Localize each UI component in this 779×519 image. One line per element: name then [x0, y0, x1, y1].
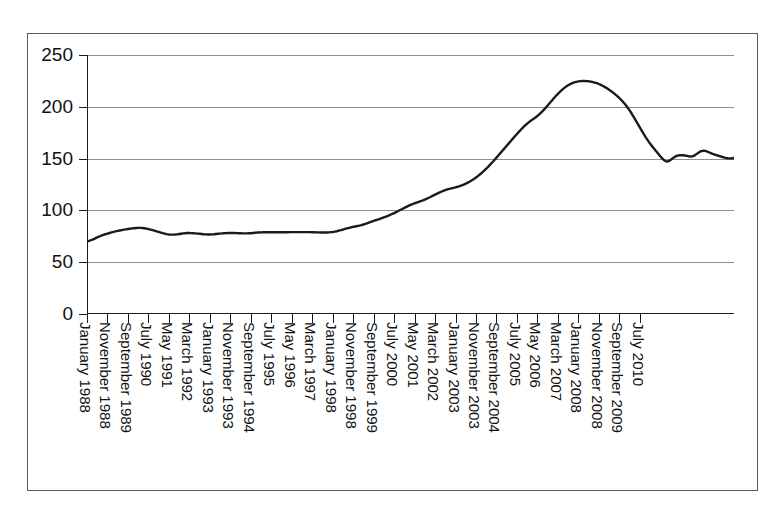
x-axis-label-1: November 1988 [98, 322, 113, 429]
data-line-layer [87, 55, 734, 314]
x-axis-label-9: July 1995 [262, 322, 277, 386]
x-axis-label-21: July 2005 [508, 322, 523, 386]
x-axis-label-7: November 1993 [221, 322, 236, 429]
x-axis-label-18: January 2003 [447, 322, 462, 413]
x-axis-label-24: January 2008 [569, 322, 584, 413]
x-axis-label-23: March 2007 [549, 322, 564, 401]
x-axis-label-15: July 2000 [385, 322, 400, 386]
chart-figure: 050100150200250 January 1988November 198… [0, 0, 779, 519]
x-axis-label-14: September 1999 [365, 322, 380, 433]
x-axis-label-10: May 1996 [283, 322, 298, 388]
y-axis-label-0: 0 [27, 304, 73, 323]
x-axis-label-11: March 1997 [303, 322, 318, 401]
y-tick-50 [79, 262, 87, 263]
x-axis-label-27: July 2010 [631, 322, 646, 386]
y-tick-0 [79, 314, 87, 315]
x-axis-label-20: September 2004 [487, 322, 502, 433]
x-axis-label-8: September 1994 [242, 322, 257, 433]
y-axis-label-50: 50 [27, 252, 73, 271]
x-axis-label-17: March 2002 [426, 322, 441, 401]
y-axis-label-200: 200 [27, 97, 73, 116]
y-axis-label-150: 150 [27, 149, 73, 168]
y-axis-label-100: 100 [27, 200, 73, 219]
y-tick-200 [79, 107, 87, 108]
x-axis-label-4: May 1991 [160, 322, 175, 388]
x-axis-label-22: May 2006 [528, 322, 543, 388]
x-axis-label-3: July 1990 [139, 322, 154, 386]
x-axis-label-19: November 2003 [467, 322, 482, 429]
x-axis-label-2: September 1989 [119, 322, 134, 433]
x-axis-label-12: January 1998 [324, 322, 339, 413]
line-series-index [87, 55, 734, 314]
x-axis-label-6: January 1993 [201, 322, 216, 413]
x-axis-label-0: January 1988 [78, 322, 93, 413]
series-polyline [87, 81, 734, 241]
y-tick-150 [79, 159, 87, 160]
x-axis-label-5: March 1992 [180, 322, 195, 401]
y-tick-100 [79, 210, 87, 211]
x-axis-label-13: November 1998 [344, 322, 359, 429]
x-axis-label-16: May 2001 [406, 322, 421, 388]
y-tick-250 [79, 55, 87, 56]
x-axis-label-25: November 2008 [590, 322, 605, 429]
x-axis-label-26: September 2009 [610, 322, 625, 433]
y-axis-label-250: 250 [27, 45, 73, 64]
